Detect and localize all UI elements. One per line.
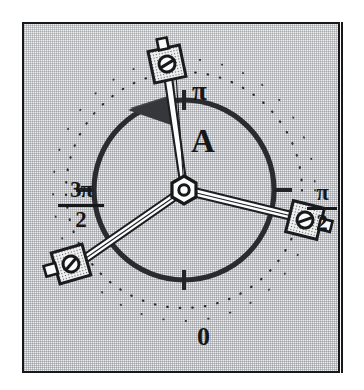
pad-tab bbox=[44, 263, 59, 277]
fraction-denominator: 2 bbox=[58, 208, 104, 231]
pad-tab bbox=[157, 38, 169, 51]
label-pi-over-two: π 2 bbox=[307, 182, 337, 234]
arm-pi bbox=[163, 67, 187, 189]
hub-bore bbox=[179, 185, 189, 195]
screw-pad-pi[interactable] bbox=[146, 35, 186, 83]
label-pi: π bbox=[192, 78, 206, 105]
fraction-numerator: 3π bbox=[58, 179, 104, 202]
figure-stage: π 0 A 3π 2 π 2 bbox=[0, 0, 364, 390]
label-a: A bbox=[191, 125, 215, 158]
panel-right-rule bbox=[341, 22, 343, 373]
center-hub[interactable] bbox=[172, 176, 196, 204]
screw-pad-3pi-2[interactable] bbox=[41, 244, 91, 287]
figure-panel: π 0 A 3π 2 π 2 bbox=[22, 22, 340, 373]
fraction-denominator: 2 bbox=[307, 211, 337, 234]
right-white-gutter bbox=[343, 0, 364, 390]
label-three-pi-over-two: 3π 2 bbox=[58, 179, 104, 231]
label-zero: 0 bbox=[197, 324, 210, 350]
fraction-numerator: π bbox=[307, 182, 337, 205]
